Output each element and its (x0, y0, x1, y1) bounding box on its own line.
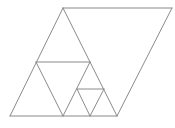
small-triangle-left-edge (77, 89, 90, 116)
sierpinski-parallelogram-diagram (0, 0, 175, 128)
small-triangle-right-edge (90, 89, 104, 116)
inner-triangle-left-edge (36, 62, 63, 116)
parallelogram-right-edge (117, 8, 172, 116)
